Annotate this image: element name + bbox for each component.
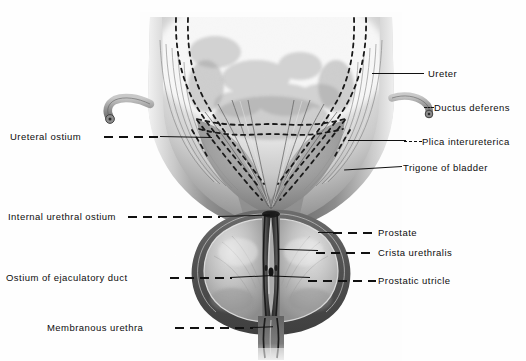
label-prostate: Prostate — [378, 227, 417, 238]
label-prostatic-utricle: Prostatic utricle — [378, 275, 451, 286]
label-internal-urethral-ostium: Internal urethral ostium — [8, 211, 116, 222]
label-membranous-urethra: Membranous urethra — [47, 322, 143, 333]
label-plica-interureterica: Plica interureterica — [422, 136, 510, 147]
label-ductus-deferens: Ductus deferens — [434, 102, 510, 113]
label-ostium-ejaculatory-duct: Ostium of ejaculatory duct — [6, 272, 128, 283]
leader-prostate — [333, 232, 377, 234]
leader-ureter — [372, 73, 424, 74]
leader-plica-interureterica — [404, 141, 422, 142]
leader-crista-urethralis — [316, 252, 376, 254]
leader-ostium-ejaculatory-duct — [170, 277, 232, 279]
leader-ureteral-ostium — [104, 136, 162, 138]
membranous-urethra — [258, 316, 284, 361]
ureter-left-stub — [106, 98, 150, 123]
leader-ductus-deferens — [424, 107, 434, 108]
anatomical-illustration — [0, 0, 526, 361]
leader-prostate-tip — [318, 232, 336, 233]
leader-prostatic-utricle — [308, 280, 376, 282]
label-crista-urethralis: Crista urethralis — [378, 247, 452, 258]
anatomy-figure: Ureteral ostium Internal urethral ostium… — [0, 0, 526, 361]
label-ureteral-ostium: Ureteral ostium — [10, 131, 81, 142]
bladder-wall — [148, 0, 394, 222]
leader-internal-urethral-ostium — [128, 216, 220, 218]
leader-plica-interureterica-tip — [348, 140, 406, 141]
label-ureter: Ureter — [428, 68, 457, 79]
prostatic-urethra — [262, 210, 280, 320]
label-trigone-of-bladder: Trigone of bladder — [403, 162, 488, 173]
leader-membranous-urethra — [175, 327, 253, 329]
